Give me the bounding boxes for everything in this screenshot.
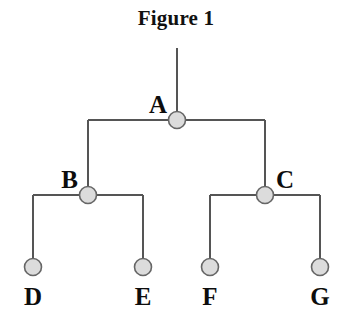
node-label-d: D [8,284,58,309]
node-label-g: G [295,284,345,309]
node-label-f: F [185,284,235,309]
tree-nodes [25,112,329,276]
tree-node-c [257,187,274,204]
tree-node-d [25,259,42,276]
node-label-c: C [276,167,326,192]
node-label-e: E [118,284,168,309]
tree-node-g [312,259,329,276]
tree-node-b [80,187,97,204]
tree-edges [33,48,320,267]
tree-node-f [202,259,219,276]
tree-diagram [0,0,352,322]
tree-node-e [135,259,152,276]
node-label-a: A [117,92,167,117]
tree-node-a [169,112,186,129]
node-label-b: B [28,167,78,192]
figure-container: Figure 1 A B C D E F G [0,0,352,322]
